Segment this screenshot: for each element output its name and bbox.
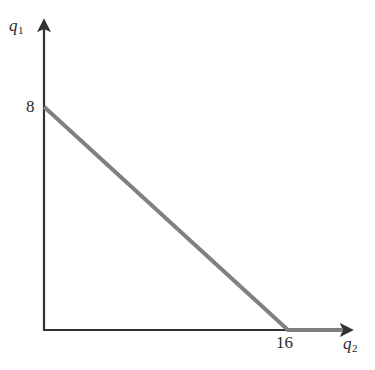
chart-plot-area — [0, 0, 375, 370]
x-axis-tick-label: 16 — [276, 334, 293, 351]
budget-constraint-line — [44, 107, 343, 330]
y-axis-label-subscript: 1 — [18, 24, 24, 36]
chart-figure: q1 q2 8 16 — [0, 0, 375, 370]
x-axis-label-main: q — [343, 334, 352, 353]
x-axis-label: q2 — [343, 335, 357, 352]
x-axis-label-subscript: 2 — [352, 342, 358, 354]
y-axis-tick-label: 8 — [26, 98, 35, 115]
y-axis-label: q1 — [9, 17, 23, 34]
y-axis-label-main: q — [9, 16, 18, 35]
